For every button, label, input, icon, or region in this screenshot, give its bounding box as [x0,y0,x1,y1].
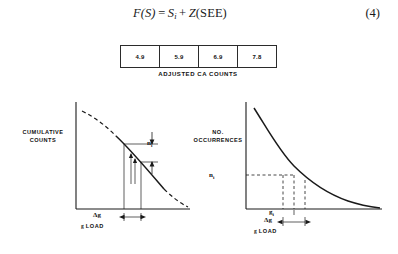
equation-number: (4) [365,6,380,21]
inner-arrowhead-right [133,158,137,163]
delta-g-arrowhead-left [277,220,283,224]
curve-no-occurrences [254,108,380,208]
x-axis-label-g-load-cumulative: g LOAD [81,223,104,229]
x-axis-label-prefix: g [254,228,257,234]
adjusted-ca-counts-table: 4.9 5.9 6.9 7.8 [120,45,277,68]
equation-equals: = [156,6,168,20]
curve-segment-dashed-head [82,111,116,136]
x-axis-label-prefix: g [81,223,84,229]
y-axis-label-no-occurrences: NO. OCCURRENCES [182,128,254,144]
adjusted-ca-counts-caption: ADJUSTED CA COUNTS [120,71,276,77]
chart-cumulative-counts: CUMULATIVE COUNTS ni Δg g LOAD [8,96,198,246]
y-axis-label-line1: CUMULATIVE [23,129,64,135]
equation-lhs: F(S) [133,6,156,20]
annotation-delta-g-cumulative: Δg [93,211,101,219]
x-axis-label-g-load-occurrences: g LOAD [254,228,277,234]
equation-row: F(S)=Si+Z(SEE) (4) [0,6,398,28]
x-axis-label-text: LOAD [259,228,277,234]
table-cell: 5.9 [160,46,199,67]
equation-expression: F(S)=Si+Z(SEE) [133,6,227,21]
annotation-ni-occurrences: ni [209,171,214,180]
table-cell: 7.8 [238,46,276,67]
table-cell: 4.9 [121,46,160,67]
annotation-gi-subscript: i [273,212,274,217]
annotation-ni-subscript: i [151,143,152,148]
no-occurrences-plot [186,96,398,246]
y-axis-label-cumulative-counts: CUMULATIVE COUNTS [12,128,74,144]
table-cell: 6.9 [199,46,238,67]
curve-segment-dashed-tail [164,189,188,207]
x-axis-label-text: LOAD [86,223,104,229]
equation-term2: Z(SEE) [189,6,227,20]
annotation-ni-cumulative: ni [147,139,152,148]
annotation-ni-subscript: i [213,175,214,180]
delta-g-arrowhead-right [141,215,147,219]
y-axis-label-line2: OCCURRENCES [194,137,243,143]
figure-area: CUMULATIVE COUNTS ni Δg g LOAD [0,96,398,246]
chart-no-occurrences: NO. OCCURRENCES ni gi Δg g LOAD [186,96,398,246]
equation-plus: + [177,6,189,20]
delta-g-arrowhead-left [119,215,125,219]
y-axis-label-line2: COUNTS [30,137,56,143]
y-axis-label-line1: NO. [212,129,223,135]
delta-g-arrowhead-right [306,220,312,224]
annotation-delta-g-occurrences: Δg [264,216,272,224]
